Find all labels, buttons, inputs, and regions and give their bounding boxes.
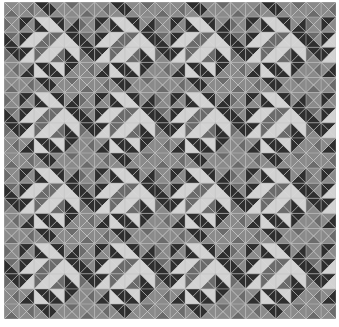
triangle-grid: [4, 2, 336, 319]
pattern-canvas: [0, 0, 339, 327]
